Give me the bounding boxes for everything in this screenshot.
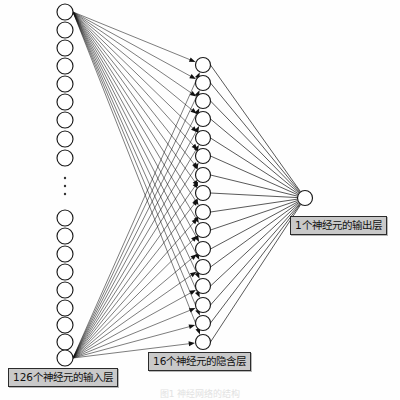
connection-line <box>211 119 299 193</box>
ellipsis-dot-icon <box>64 185 66 187</box>
connection-line <box>211 203 300 286</box>
hidden-neuron-node <box>196 242 211 257</box>
ellipsis-dot-icon <box>64 193 66 195</box>
connection-line <box>73 76 198 358</box>
connection-line <box>73 257 194 358</box>
hidden-neuron-node <box>196 131 211 146</box>
connection-arrowhead <box>189 57 196 62</box>
connection-line <box>73 94 198 358</box>
connection-arrowhead <box>189 324 196 329</box>
input-layer-label: 126个神经元的输入层 <box>8 368 118 387</box>
input-neuron-node <box>57 282 73 298</box>
hidden-neuron-node <box>196 316 211 331</box>
input-neuron-node <box>57 300 73 316</box>
input-neuron-node <box>57 317 73 333</box>
hidden-neuron-node <box>196 58 211 73</box>
input-neuron-node <box>57 58 73 74</box>
input-neuron-node <box>57 22 73 38</box>
connection-line <box>73 12 195 147</box>
input-neuron-node <box>57 112 73 128</box>
connection-arrowhead <box>189 341 195 346</box>
input-neuron-node <box>57 4 73 20</box>
input-neuron-node <box>57 264 73 280</box>
connection-line <box>73 238 194 358</box>
hidden-neuron-node <box>196 112 211 127</box>
output-layer-label: 1个神经元的输出层 <box>290 216 387 235</box>
connection-line <box>73 12 197 220</box>
input-neuron-node <box>57 76 73 92</box>
input-neuron-node <box>57 246 73 262</box>
connection-line <box>73 12 196 183</box>
input-neuron-node <box>57 40 73 56</box>
hidden-neuron-node <box>196 186 211 201</box>
input-neuron-node <box>57 350 73 366</box>
input-neuron-node <box>57 150 73 166</box>
network-graph-svg <box>0 0 400 400</box>
connection-line <box>73 221 195 358</box>
hidden-neuron-node <box>196 298 211 313</box>
ellipsis-dot-icon <box>64 177 66 179</box>
connection-line <box>211 203 299 267</box>
input-neuron-node <box>57 210 73 226</box>
output-neuron-node <box>298 191 313 206</box>
hidden-neuron-node <box>196 94 211 109</box>
hidden-neuron-node <box>196 149 211 164</box>
hidden-layer-label: 16个神经元的隐含层 <box>148 352 251 371</box>
connection-line <box>211 204 300 305</box>
connection-line <box>73 12 194 130</box>
output-layer-nodes <box>298 191 313 206</box>
connection-arrowhead <box>189 308 196 313</box>
connection-line <box>211 199 298 212</box>
connection-arrowhead <box>189 74 196 79</box>
input-neuron-node <box>57 228 73 244</box>
hidden-neuron-node <box>196 279 211 294</box>
neural-network-diagram: 126个神经元的输入层 16个神经元的隐含层 1个神经元的输出层 图1 神经网络… <box>0 0 400 400</box>
connection-line <box>211 156 298 195</box>
hidden-neuron-node <box>196 205 211 220</box>
hidden-neuron-node <box>196 223 211 238</box>
input-neuron-node <box>57 131 73 147</box>
connection-line <box>73 12 198 275</box>
connection-line <box>211 204 301 323</box>
connection-line <box>73 12 192 60</box>
hidden-neuron-node <box>196 335 211 350</box>
hidden-neuron-node <box>196 260 211 275</box>
connection-line <box>73 202 196 358</box>
connection-arrowhead <box>189 290 196 295</box>
input-neuron-node <box>57 334 73 350</box>
connection-line <box>73 166 197 358</box>
input-neuron-node <box>57 94 73 110</box>
connection-line <box>73 148 197 358</box>
edges-input-to-hidden-layer <box>73 12 199 358</box>
connection-arrowhead <box>190 91 196 96</box>
hidden-neuron-node <box>196 168 211 183</box>
hidden-neuron-node <box>196 76 211 91</box>
connection-line <box>211 175 298 196</box>
connection-line <box>211 65 301 191</box>
connection-line <box>211 193 298 198</box>
input-layer-ellipsis-icon <box>64 177 66 195</box>
connection-line <box>73 185 196 358</box>
connection-arrowhead <box>191 254 197 260</box>
figure-caption: 图1 神经网络的结构 <box>0 387 400 400</box>
connection-line <box>73 12 196 202</box>
edges-hidden-to-output-layer <box>211 65 301 342</box>
connection-line <box>73 12 196 166</box>
